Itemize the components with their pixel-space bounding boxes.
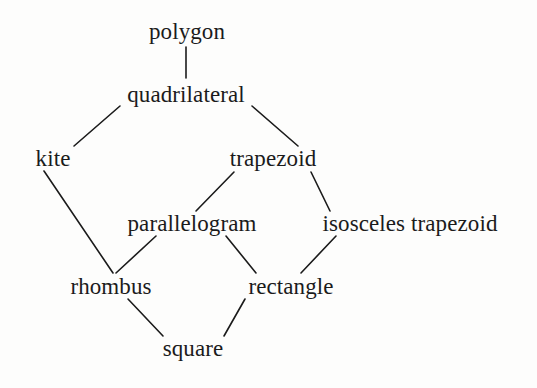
- node-kite: kite: [36, 147, 71, 170]
- node-polygon: polygon: [149, 20, 225, 43]
- node-parallelogram: parallelogram: [127, 212, 256, 235]
- node-trapezoid: trapezoid: [230, 147, 316, 170]
- edge-trapezoid-to-isosceles_trapezoid: [311, 172, 330, 211]
- node-quadrilateral: quadrilateral: [127, 83, 245, 106]
- edge-layer: [0, 0, 537, 388]
- edge-quadrilateral-to-kite: [74, 106, 120, 146]
- node-square: square: [163, 337, 224, 360]
- edge-trapezoid-to-parallelogram: [196, 172, 234, 211]
- edge-parallelogram-to-rectangle: [226, 236, 256, 273]
- edge-rhombus-to-square: [128, 299, 163, 336]
- node-rhombus: rhombus: [70, 275, 151, 298]
- node-rectangle: rectangle: [248, 275, 333, 298]
- edge-isosceles_trapezoid-to-rectangle: [301, 236, 336, 273]
- quadrilateral-hierarchy-diagram: polygonquadrilateralkitetrapezoidparalle…: [0, 0, 537, 388]
- node-isosceles_trapezoid: isosceles trapezoid: [323, 212, 498, 235]
- edge-quadrilateral-to-trapezoid: [252, 106, 298, 146]
- edge-parallelogram-to-rhombus: [116, 236, 156, 273]
- edge-rectangle-to-square: [224, 299, 245, 336]
- edge-kite-to-rhombus: [44, 171, 113, 273]
